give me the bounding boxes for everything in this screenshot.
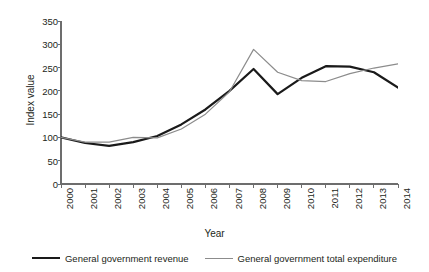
series-line-0	[61, 66, 398, 146]
y-tick-label: 0	[30, 179, 58, 190]
x-tick-label: 2005	[185, 188, 195, 209]
y-tick-label: 150	[30, 109, 58, 120]
series-line-1	[61, 49, 398, 142]
x-tick-label: 2000	[65, 188, 75, 209]
legend-line-swatch-icon	[32, 257, 60, 259]
x-tick-label: 2006	[209, 188, 219, 209]
x-tick-label: 2001	[89, 188, 99, 209]
x-tick-label: 2010	[306, 188, 316, 209]
x-tick-label-group: 2000200120022003200420052006200720082009…	[61, 188, 398, 228]
x-tick-label: 2011	[330, 188, 340, 208]
x-tick-label: 2013	[378, 188, 388, 209]
legend-entry: General government total expenditure	[205, 253, 398, 264]
chart-figure: Index value 050100150200250300350 200020…	[0, 0, 429, 272]
legend-label: General government revenue	[65, 253, 189, 264]
y-tick-label: 250	[30, 62, 58, 73]
x-tick-label: 2008	[258, 188, 268, 209]
y-tick-label: 200	[30, 85, 58, 96]
x-tick-label: 2002	[113, 188, 123, 209]
chart-legend: General government revenueGeneral govern…	[0, 249, 429, 267]
x-axis-title: Year	[0, 228, 429, 239]
legend-line-swatch-icon	[205, 258, 233, 259]
x-tick-label: 2003	[137, 188, 147, 209]
plot-area	[61, 21, 398, 184]
y-tick-label: 100	[30, 132, 58, 143]
legend-entry: General government revenue	[32, 253, 189, 264]
data-lines	[61, 21, 398, 184]
y-tick-label: 50	[30, 155, 58, 166]
y-tick-label: 350	[30, 16, 58, 27]
x-tick-label: 2012	[354, 188, 364, 209]
x-tick-label: 2009	[282, 188, 292, 209]
x-tick-label: 2007	[234, 188, 244, 209]
x-tick-label: 2014	[402, 188, 412, 209]
y-tick-label: 300	[30, 39, 58, 50]
x-tick-label: 2004	[161, 188, 171, 209]
legend-label: General government total expenditure	[238, 253, 398, 264]
